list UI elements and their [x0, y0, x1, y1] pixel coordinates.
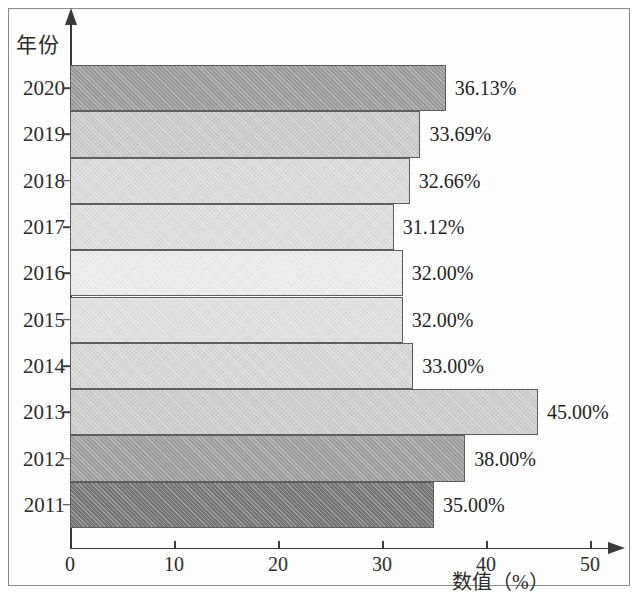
y-axis-tick-label: 2015 [23, 307, 65, 332]
y-axis-tick-label: 2012 [23, 446, 65, 471]
x-axis-tick-label: 50 [580, 553, 600, 576]
x-axis-arrow-icon [608, 542, 625, 554]
bar-row: 201345.00% [0, 389, 640, 435]
y-axis-tick-label: 2017 [23, 215, 65, 240]
bar-value-label: 33.69% [429, 123, 491, 146]
bar-row: 201238.00% [0, 435, 640, 481]
bar-value-label: 45.00% [547, 401, 609, 424]
bar-2013[interactable] [70, 389, 538, 435]
bar-2017[interactable] [70, 204, 394, 250]
x-axis-tick-label: 40 [476, 553, 496, 576]
bar-value-label: 35.00% [443, 493, 505, 516]
bar-2019[interactable] [70, 111, 420, 157]
y-axis-title: 年份 [16, 28, 59, 58]
x-axis-tick-label: 0 [65, 553, 75, 576]
bar-chart-figure: 年份 数值（%） 202036.13%201933.69%201832.66%2… [0, 0, 640, 595]
bar-row: 201832.66% [0, 158, 640, 204]
x-axis-tick-mark [486, 541, 488, 548]
bar-value-label: 31.12% [403, 216, 465, 239]
bar-value-label: 32.00% [412, 308, 474, 331]
bar-2011[interactable] [70, 482, 434, 528]
x-axis-title: 数值（%） [452, 566, 549, 595]
x-axis-tick-mark [278, 541, 280, 548]
bar-value-label: 32.66% [419, 169, 481, 192]
x-axis-tick-mark [382, 541, 384, 548]
bar-row: 201532.00% [0, 297, 640, 343]
bar-row: 201731.12% [0, 204, 640, 250]
x-axis-tick-label: 10 [164, 553, 184, 576]
bar-2020[interactable] [70, 65, 446, 111]
bar-row: 201632.00% [0, 250, 640, 296]
y-axis-tick-label: 2016 [23, 261, 65, 286]
bar-2015[interactable] [70, 297, 403, 343]
bar-row: 201135.00% [0, 482, 640, 528]
bar-2012[interactable] [70, 435, 465, 481]
bar-row: 202036.13% [0, 65, 640, 111]
x-axis-line [70, 548, 611, 550]
x-axis-tick-label: 20 [268, 553, 288, 576]
y-axis-tick-label: 2011 [24, 492, 65, 517]
bar-2016[interactable] [70, 250, 403, 296]
bar-value-label: 38.00% [474, 447, 536, 470]
y-axis-tick-label: 2018 [23, 168, 65, 193]
bar-value-label: 32.00% [412, 262, 474, 285]
bar-value-label: 33.00% [422, 354, 484, 377]
x-axis-tick-mark [174, 541, 176, 548]
y-axis-arrow-icon [65, 8, 77, 25]
y-axis-tick-label: 2013 [23, 400, 65, 425]
y-axis-tick-label: 2019 [23, 122, 65, 147]
x-axis-tick-mark [590, 541, 592, 548]
bar-value-label: 36.13% [455, 77, 517, 100]
bar-2014[interactable] [70, 343, 413, 389]
bar-row: 201933.69% [0, 111, 640, 157]
bar-row: 201433.00% [0, 343, 640, 389]
y-axis-tick-label: 2014 [23, 353, 65, 378]
x-axis-tick-label: 30 [372, 553, 392, 576]
y-axis-tick-label: 2020 [23, 76, 65, 101]
bar-2018[interactable] [70, 158, 410, 204]
